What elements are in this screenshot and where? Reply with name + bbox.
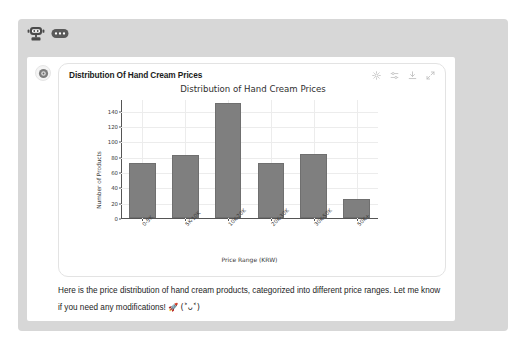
widget-header: Distribution Of Hand Cream Prices [59, 64, 445, 86]
widget-action-bar [372, 71, 435, 80]
assistant-message-text: Here is the price distribution of hand c… [58, 283, 444, 316]
y-tick-mark [119, 126, 121, 127]
chart-widget: Distribution Of Hand Cream Prices [58, 63, 446, 277]
kaomoji: (˃ᴗ˂) [180, 302, 200, 312]
y-tick-mark [119, 111, 121, 112]
y-tick-label: 100 [108, 139, 118, 145]
y-tick-label: 0 [115, 216, 118, 222]
chat-panel: Distribution Of Hand Cream Prices [18, 19, 508, 331]
x-axis-spine [121, 218, 378, 219]
message-line-1: Here is the price distribution of hand c… [58, 286, 405, 295]
screenshot-root: Distribution Of Hand Cream Prices [0, 0, 526, 345]
y-gridline [121, 142, 378, 143]
bar [172, 155, 199, 218]
y-tick-label: 40 [111, 185, 118, 191]
y-gridline [121, 204, 378, 205]
y-tick-mark [119, 188, 121, 189]
download-icon[interactable] [408, 71, 417, 80]
bar [129, 163, 156, 218]
bar [258, 163, 285, 218]
y-tick-label: 20 [111, 201, 118, 207]
assistant-logo-icon [35, 65, 51, 81]
bar-chart-figure: Distribution of Hand Cream Prices Number… [59, 84, 447, 276]
y-tick-mark [119, 142, 121, 143]
rocket-emoji: 🚀 [168, 302, 178, 312]
sliders-icon[interactable] [390, 71, 399, 80]
y-tick-label: 120 [108, 124, 118, 130]
y-tick-label: 60 [111, 170, 118, 176]
y-tick-mark [119, 219, 121, 220]
plot-area: 0204060801001201400-5K5K-10K10K-20K20K-3… [121, 100, 378, 219]
chart-y-axis-label: Number of Products [96, 151, 102, 209]
dots-bubble-icon [51, 28, 69, 40]
chart-x-axis-label: Price Range (KRW) [121, 256, 378, 263]
robot-icon [26, 25, 46, 43]
y-gridline [121, 127, 378, 128]
y-tick-mark [119, 172, 121, 173]
plot-frame [121, 100, 378, 219]
assistant-header [26, 25, 69, 43]
widget-title: Distribution Of Hand Cream Prices [69, 70, 202, 80]
y-gridline [121, 158, 378, 159]
y-tick-label: 80 [111, 155, 118, 161]
y-gridline [121, 173, 378, 174]
y-tick-mark [119, 157, 121, 158]
bar [215, 103, 242, 218]
y-gridline [121, 112, 378, 113]
settings-icon[interactable] [372, 71, 381, 80]
y-tick-label: 140 [108, 109, 118, 115]
y-axis-spine [121, 100, 122, 219]
y-tick-mark [119, 203, 121, 204]
chart-title: Distribution of Hand Cream Prices [59, 84, 447, 94]
expand-icon[interactable] [426, 71, 435, 80]
assistant-message-card: Distribution Of Hand Cream Prices [27, 57, 455, 321]
bar [300, 154, 327, 218]
y-gridline [121, 188, 378, 189]
